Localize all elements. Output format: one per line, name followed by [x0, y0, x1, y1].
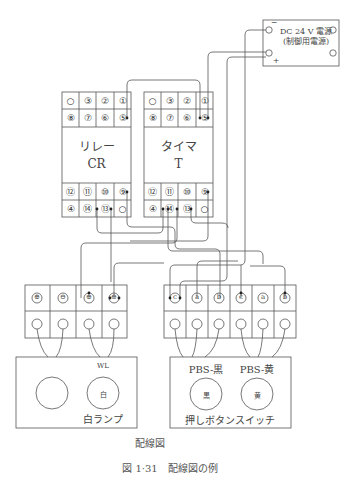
lamp-terminal-plus-1: ⊕	[32, 293, 42, 301]
pbs-terminal-b-1: b	[214, 293, 224, 301]
timer-code: T	[144, 156, 213, 172]
terminal: ⑧	[144, 113, 161, 123]
pbs-terminal-a-2: a	[258, 293, 268, 301]
diagram-caption: 配線図	[120, 435, 180, 450]
terminal: ⑧	[62, 113, 79, 123]
lamp-terminal-minus-1: ⊖	[58, 293, 68, 301]
terminal: ⑪	[79, 185, 96, 198]
pbs-yellow-button: 黄	[247, 390, 267, 400]
power-supply-minus: −	[270, 18, 278, 28]
timer-name: タイマ	[144, 139, 213, 155]
terminal: ③	[79, 96, 96, 106]
terminal: ②	[96, 96, 114, 106]
terminal: ○	[196, 204, 213, 214]
pbs-terminal-b-2: b	[280, 293, 290, 301]
terminal: ⑨	[114, 187, 131, 197]
pbs-terminal-c-2: c	[236, 293, 246, 301]
pbs-label: 押しボタンスイッチ	[180, 412, 280, 427]
terminal: ⑫	[62, 185, 79, 198]
timer-top-terminals: ○ ③ ② ① ⑧ ⑦ ⑥ ⑤	[144, 92, 213, 127]
terminal: ⑪	[161, 185, 178, 198]
terminal: ⑥	[96, 113, 114, 123]
terminal: ⑭	[79, 202, 96, 215]
terminal: ⑭	[161, 202, 178, 215]
terminal: ⑤	[114, 113, 131, 123]
power-supply-plus: +	[272, 56, 280, 66]
timer-bottom-terminals: ⑫ ⑪ ⑩ ⑨ ④ ⑭ ⑬ ○	[144, 183, 213, 217]
terminal: ⑥	[178, 113, 196, 123]
lamp-tag: WL	[93, 362, 113, 370]
terminal: ⑦	[161, 113, 178, 123]
terminal: ⑤	[196, 113, 213, 123]
terminal: ①	[114, 96, 131, 106]
terminal: ①	[196, 96, 213, 106]
relay-top-terminals: ○ ③ ② ① ⑧ ⑦ ⑥ ⑤	[62, 92, 131, 127]
lamp-label: 白ランプ	[78, 411, 128, 426]
lamp-terminal-minus-2: ⊖	[109, 293, 119, 301]
relay-bottom-terminals: ⑫ ⑪ ⑩ ⑨ ④ ⑭ ⑬ ○	[62, 183, 131, 217]
terminal: ○	[114, 204, 131, 214]
pbs-terminal-c-1: c	[170, 293, 180, 301]
power-supply-subtitle: (制御用電源)	[276, 37, 336, 47]
pbs-black-button: 黒	[196, 390, 216, 400]
terminal: ⑨	[196, 187, 213, 197]
terminal: ⑩	[96, 187, 114, 197]
terminal: ④	[144, 204, 161, 214]
relay-code: CR	[62, 156, 131, 172]
pbs-terminal-a-1: a	[192, 293, 202, 301]
lamp-symbol: 白	[93, 389, 113, 399]
terminal: ○	[62, 96, 79, 106]
figure-caption: 図 1·31 配線図の例	[100, 460, 240, 475]
lamp-terminal-plus-2: ⊕	[84, 293, 94, 301]
terminal: ⑫	[144, 185, 161, 198]
wiring-diagram-graphics	[0, 0, 361, 483]
relay-name: リレー	[62, 139, 131, 155]
terminal: ○	[144, 96, 161, 106]
terminal: ⑦	[79, 113, 96, 123]
terminal: ⑩	[178, 187, 196, 197]
terminal: ②	[178, 96, 196, 106]
terminal: ⑬	[178, 202, 196, 215]
terminal: ③	[161, 96, 178, 106]
terminal: ④	[62, 204, 79, 214]
terminal: ⑬	[96, 202, 114, 215]
pbs-black-tag: PBS-黒	[186, 361, 226, 376]
pbs-yellow-tag: PBS-黄	[237, 361, 277, 376]
power-supply-title: DC 24 V 電源	[276, 27, 336, 37]
